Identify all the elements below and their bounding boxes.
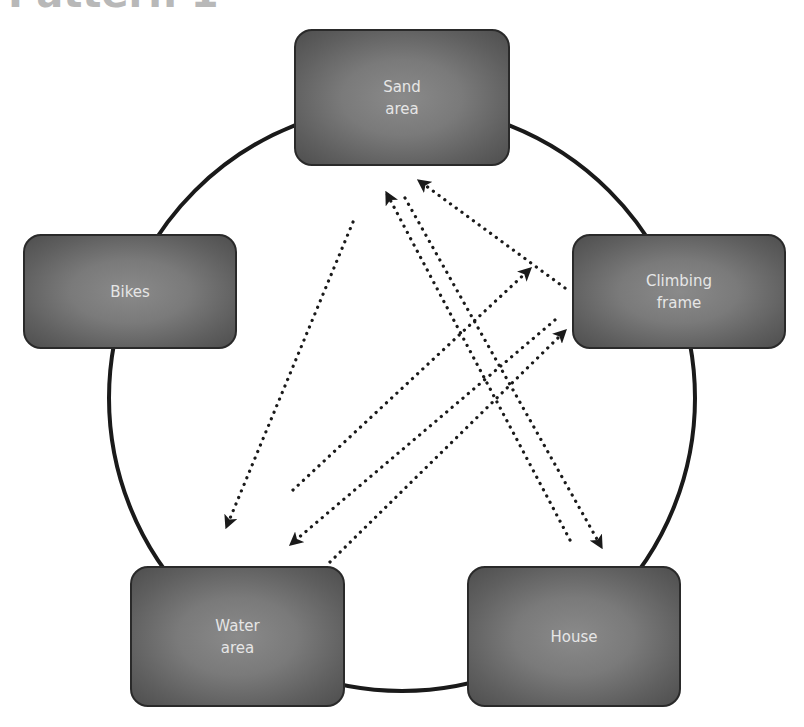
- arrow-sand-to-water: [226, 222, 353, 528]
- arrow-climbing-to-water: [290, 320, 555, 545]
- arrow-water-to-climbing-upper: [293, 268, 531, 490]
- node-water-area: Water area: [130, 566, 345, 707]
- node-bikes: Bikes: [23, 234, 237, 349]
- node-house: House: [467, 566, 681, 707]
- node-climbing-frame: Climbing frame: [572, 234, 786, 349]
- arrow-water-to-climbing-lower: [330, 330, 566, 562]
- arrow-climbing-to-sand: [418, 180, 565, 288]
- node-sand-area: Sand area: [294, 29, 510, 166]
- arrow-house-to-sand: [386, 192, 570, 540]
